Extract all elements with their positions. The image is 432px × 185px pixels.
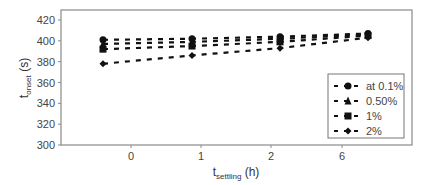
y-tick-label: 300 xyxy=(37,139,55,151)
diamond-marker-icon xyxy=(100,60,107,67)
x-tick-label: 6 xyxy=(339,150,345,162)
y-tick-label: 400 xyxy=(37,35,55,47)
y-tick-label: 360 xyxy=(37,77,55,89)
y-tick-label: 340 xyxy=(37,97,55,109)
square-marker-icon xyxy=(189,43,196,50)
x-tick-label: 1 xyxy=(198,150,204,162)
y-tick-label: 380 xyxy=(37,56,55,68)
legend-label: 1% xyxy=(366,110,382,122)
diamond-marker-icon xyxy=(189,52,196,59)
chart: 300320340360380400420 0126 tonset (s) ts… xyxy=(0,0,432,185)
legend-label: 2% xyxy=(366,125,382,137)
y-tick-label: 320 xyxy=(37,118,55,130)
square-marker-icon xyxy=(277,38,284,45)
legend-label: at 0.1% xyxy=(366,80,404,92)
y-axis-ticks: 300320340360380400420 xyxy=(37,14,61,151)
legend: at 0.1%0.50%1%2% xyxy=(328,74,404,138)
y-axis-title: tonset (s) xyxy=(17,58,33,98)
square-marker-icon xyxy=(100,46,107,53)
x-tick-label: 0 xyxy=(128,150,134,162)
x-tick-label: 2 xyxy=(268,150,274,162)
x-axis-ticks: 0126 xyxy=(128,145,345,162)
series-layer xyxy=(100,30,372,67)
square-marker-icon xyxy=(345,113,352,120)
legend-label: 0.50% xyxy=(366,95,397,107)
circle-marker-icon xyxy=(345,83,352,90)
y-tick-label: 420 xyxy=(37,14,55,26)
x-axis-title: tsettling (h) xyxy=(213,165,260,181)
diamond-marker-icon xyxy=(277,45,284,52)
